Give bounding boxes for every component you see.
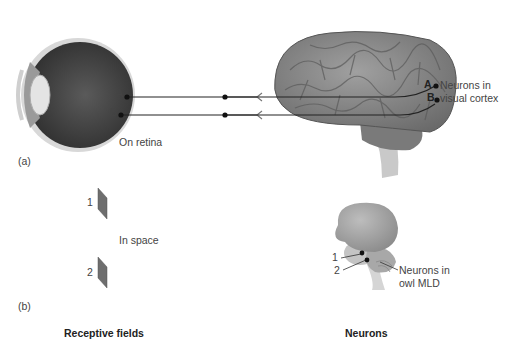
- field-2-label: 2: [87, 266, 93, 278]
- owl-point-1-label: 1: [332, 251, 338, 263]
- receptive-field-2: [98, 257, 107, 288]
- in-space-caption: In space: [119, 234, 159, 246]
- cortex-caption-line2: visual cortex: [440, 92, 498, 104]
- neurons-header: Neurons: [345, 327, 388, 339]
- retina-caption: On retina: [119, 136, 162, 148]
- cortex-caption-line1: Neurons in: [440, 79, 491, 91]
- receptive-fields-header: Receptive fields: [64, 327, 144, 339]
- field-1-label: 1: [87, 196, 93, 208]
- panel-b-label: (b): [18, 300, 31, 312]
- human-brain-illustration: [275, 32, 457, 178]
- cortex-point-b-label: B: [427, 91, 435, 103]
- retina-point-a-label: A: [116, 87, 123, 99]
- retina-point-b-label: B: [110, 106, 117, 118]
- receptive-field-1: [98, 188, 107, 219]
- owl-caption-line2: owl MLD: [399, 277, 440, 289]
- diagram-canvas: [0, 0, 512, 361]
- cortex-point-a-label: A: [424, 78, 432, 90]
- panel-a-label: (a): [18, 155, 31, 167]
- owl-brain-illustration: [335, 203, 398, 290]
- owl-point-2-label: 2: [334, 264, 340, 276]
- owl-caption-line1: Neurons in: [399, 264, 450, 276]
